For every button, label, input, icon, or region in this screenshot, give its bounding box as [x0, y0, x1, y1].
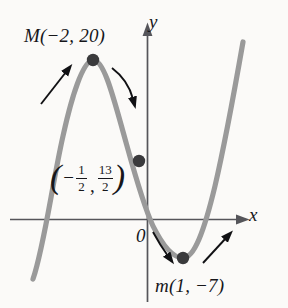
- direction-arrow-decreasing-after-max: [112, 68, 133, 99]
- inflection-x-numerator: 1: [77, 163, 86, 177]
- graph-canvas: [0, 0, 288, 308]
- direction-arrow-increasing-left: [41, 72, 66, 104]
- maximum-point-label: M(−2, 20): [24, 26, 105, 45]
- x-axis-label: x: [249, 205, 257, 224]
- minimum-point-label: m(1, −7): [155, 276, 224, 295]
- inflection-minus-sign: −: [63, 168, 74, 187]
- inflection-x-fraction: 1 2: [76, 163, 87, 193]
- cubic-graph-figure: M(−2, 20) ( − 1 2 , 13 2 ) m(1, −7) 0 x …: [0, 0, 288, 308]
- inflection-point-label: ( − 1 2 , 13 2 ): [50, 163, 125, 193]
- inflection-x-denominator: 2: [77, 180, 86, 194]
- inflection-y-denominator: 2: [101, 180, 110, 194]
- inflection-close-paren: ): [114, 163, 125, 191]
- inflection-comma: ,: [90, 176, 95, 195]
- y-axis-label: y: [149, 12, 157, 31]
- origin-label: 0: [136, 226, 146, 245]
- inflection-y-numerator: 13: [98, 163, 113, 177]
- point-inflection: [133, 155, 145, 167]
- inflection-y-fraction: 13 2: [98, 163, 113, 193]
- direction-arrow-increasing-right: [203, 238, 226, 263]
- point-maximum: [87, 54, 99, 66]
- point-minimum: [177, 252, 189, 264]
- inflection-open-paren: (: [50, 163, 61, 191]
